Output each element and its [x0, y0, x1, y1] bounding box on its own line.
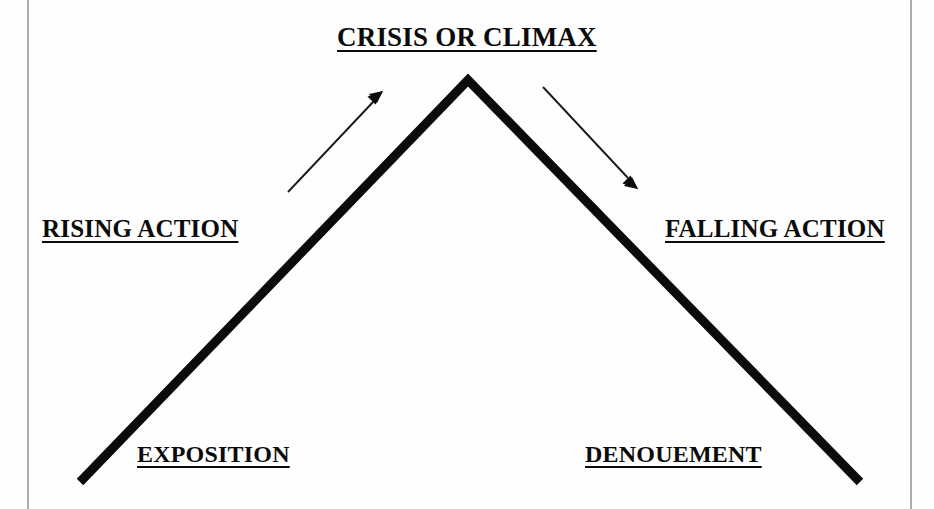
label-crisis-or-climax: CRISIS OR CLIMAX	[337, 22, 597, 53]
label-exposition: EXPOSITION	[137, 441, 290, 468]
plot-arc-line	[80, 80, 860, 482]
label-denouement: DENOUEMENT	[585, 441, 762, 468]
label-rising-action: RISING ACTION	[42, 215, 238, 243]
label-falling-action: FALLING ACTION	[665, 215, 885, 243]
plot-diagram-graphic	[0, 0, 934, 509]
plot-diagram-canvas: CRISIS OR CLIMAX RISING ACTION FALLING A…	[0, 0, 934, 509]
